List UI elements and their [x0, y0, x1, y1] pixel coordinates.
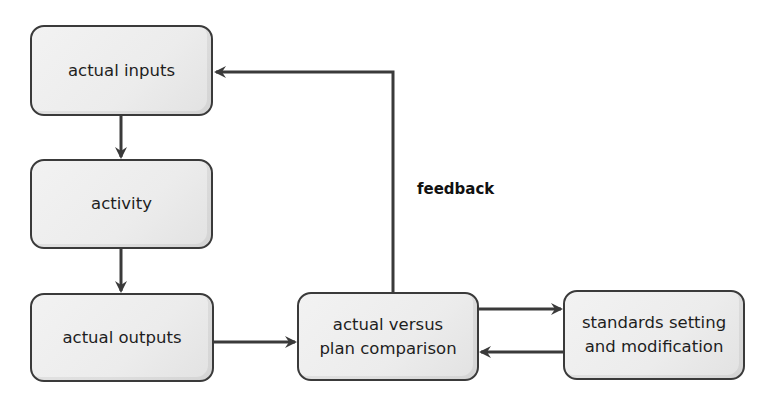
node-label-line2: plan comparison [319, 337, 456, 361]
node-actual-inputs: actual inputs [30, 25, 213, 116]
node-label: actual outputs [62, 326, 181, 350]
node-label-line1: actual versus [333, 313, 443, 337]
node-label: actual inputs [68, 59, 175, 83]
node-standards: standards setting and modification [563, 290, 745, 380]
node-activity: activity [30, 159, 213, 249]
node-label: activity [91, 192, 152, 216]
node-actual-outputs: actual outputs [30, 293, 214, 382]
node-label-line2: and modification [585, 335, 724, 359]
node-label-line1: standards setting [582, 311, 726, 335]
node-comparison: actual versus plan comparison [297, 292, 479, 381]
feedback-label: feedback [417, 180, 494, 198]
arrow-feedback-loop [216, 72, 393, 292]
